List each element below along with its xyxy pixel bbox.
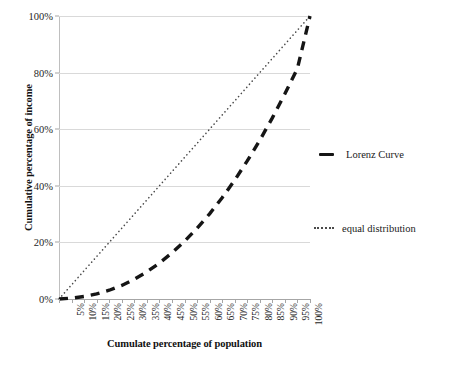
series-layer (59, 16, 310, 299)
x-axis-tick-label: 40% (163, 303, 173, 320)
x-axis-tick-label: 75% (251, 303, 261, 320)
x-axis-tick-label: 90% (289, 303, 299, 320)
x-axis-tick-mark (185, 299, 186, 303)
x-axis-tick-mark (310, 299, 311, 303)
x-axis-tick-mark (122, 299, 123, 303)
plot-area: 0%20%40%60%80%100% (59, 16, 310, 299)
legend-item-equal-distribution: equal distribution (314, 222, 416, 234)
x-axis-tick-mark (97, 299, 98, 303)
x-axis-tick-mark (147, 299, 148, 303)
x-axis-tick-mark (247, 299, 248, 303)
x-axis-tick-label: 80% (264, 303, 274, 320)
y-axis-tick-label: 80% (34, 67, 53, 78)
x-axis-tick-label: 25% (126, 303, 136, 320)
y-axis-title: Cumulative percentage of income (23, 38, 34, 278)
x-axis-tick-label: 10% (88, 303, 98, 320)
y-axis-tick-label: 20% (34, 237, 53, 248)
x-axis-tick-mark (134, 299, 135, 303)
y-axis-tick-label: 100% (29, 11, 54, 22)
x-axis-tick-mark (109, 299, 110, 303)
y-axis-tick-label: 0% (39, 294, 53, 305)
x-axis-tick-label: 20% (113, 303, 123, 320)
x-axis-tick-mark (222, 299, 223, 303)
dotted-line-swatch-icon (314, 222, 334, 234)
legend-item-lorenz-curve: Lorenz Curve (318, 148, 404, 160)
x-axis-tick-mark (84, 299, 85, 303)
x-axis-tick-label: 70% (239, 303, 249, 320)
x-axis-tick-label: 15% (101, 303, 111, 320)
x-axis-tick-label: 95% (301, 303, 311, 320)
x-axis-tick-mark (285, 299, 286, 303)
x-axis-tick-mark (260, 299, 261, 303)
x-axis-tick-label: 60% (214, 303, 224, 320)
x-axis-tick-label: 35% (151, 303, 161, 320)
legend-label-equal-distribution: equal distribution (342, 223, 416, 234)
x-axis-tick-label: 30% (138, 303, 148, 320)
x-axis-tick-label: 5% (76, 303, 86, 316)
x-axis-tick-mark (210, 299, 211, 303)
x-axis-tick-mark (197, 299, 198, 303)
lorenz-curve-chart: Cumulative percentage of income 0%20%40%… (0, 0, 449, 367)
x-axis-tick-mark (59, 299, 60, 303)
x-axis-tick-label: 55% (201, 303, 211, 320)
x-axis-tick-mark (72, 299, 73, 303)
x-axis-title: Cumulate percentage of population (59, 338, 310, 349)
x-axis-tick-label: 50% (189, 303, 199, 320)
x-axis-tick-label: 85% (276, 303, 286, 320)
legend-label-lorenz-curve: Lorenz Curve (346, 149, 404, 160)
x-axis-tick-mark (297, 299, 298, 303)
y-axis-tick-label: 60% (34, 124, 53, 135)
x-axis-tick-mark (235, 299, 236, 303)
y-axis-tick-label: 40% (34, 180, 53, 191)
x-axis-tick-mark (159, 299, 160, 303)
x-axis-tick-mark (172, 299, 173, 303)
equal-distribution-line (59, 16, 310, 299)
dashed-line-swatch-icon (318, 148, 338, 160)
x-axis-tick-mark (272, 299, 273, 303)
x-axis-tick-label: 100% (314, 303, 324, 325)
x-axis-tick-label: 65% (226, 303, 236, 320)
x-axis-tick-group: 5%10%15%20%25%30%35%40%45%50%55%60%65%70… (59, 299, 310, 337)
x-axis-tick-label: 45% (176, 303, 186, 320)
